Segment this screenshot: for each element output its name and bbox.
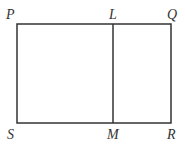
rectangle-pqrs <box>17 24 171 123</box>
rectangle-diagram: P L Q S M R <box>0 0 185 149</box>
vertex-label-p: P <box>5 7 15 22</box>
vertex-label-l: L <box>108 7 117 22</box>
vertex-label-q: Q <box>167 7 177 22</box>
vertex-label-r: R <box>166 127 176 142</box>
vertex-label-s: S <box>7 127 14 142</box>
vertex-label-m: M <box>106 127 120 142</box>
